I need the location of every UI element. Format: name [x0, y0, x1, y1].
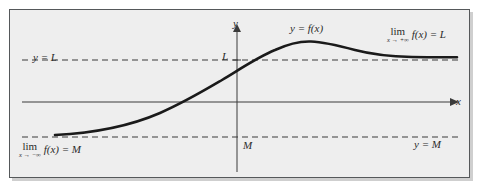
- asymptote-upper-label: y = L: [33, 52, 57, 63]
- limit-expression-left: lim x → −∞ f(x) = M: [19, 141, 81, 159]
- limit-operator-left: lim x → −∞: [19, 141, 41, 159]
- function-curve: [55, 41, 457, 135]
- y-axis-label: y: [233, 18, 238, 29]
- limit-body-right: f(x) = L: [412, 28, 446, 40]
- limit-subscript-right: x → +∞: [387, 37, 409, 44]
- y-axis-tick-label-L: L: [222, 51, 228, 62]
- asymptote-lower-label: y = M: [414, 139, 441, 150]
- curve-label: y = f(x): [290, 23, 323, 34]
- limit-body-left: f(x) = M: [44, 143, 81, 155]
- limit-expression-right: lim x → +∞ f(x) = L: [387, 26, 446, 44]
- limit-operator-right: lim x → +∞: [387, 26, 409, 44]
- y-axis-tick-label-M: M: [243, 140, 252, 151]
- x-axis-label: x: [456, 96, 461, 107]
- limit-subscript-left: x → −∞: [19, 152, 41, 159]
- figure-root: y = L y = M y = f(x) y x L M lim x → +∞ …: [0, 0, 487, 192]
